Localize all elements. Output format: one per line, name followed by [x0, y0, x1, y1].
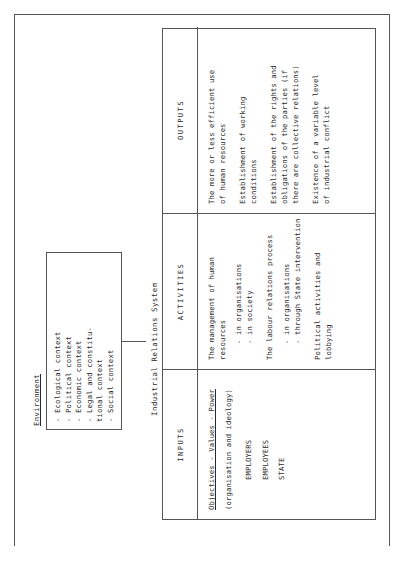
- inputs-line: EMPLOYERS: [244, 378, 255, 510]
- outputs-line: Existence of a variable level: [311, 35, 322, 204]
- environment-item: - Ecological context: [53, 260, 64, 422]
- outputs-line: conditions: [249, 35, 260, 204]
- column-body-outputs: The more or less efficient use of human …: [198, 27, 375, 213]
- column-header-outputs: OUTPUTS: [163, 27, 198, 213]
- inputs-line: Objectives - Values - Power: [207, 378, 218, 510]
- column-activities: ACTIVITIES The management of human resou…: [163, 213, 375, 369]
- diagram-canvas: Environment - Ecological context - Polit…: [0, 0, 404, 566]
- environment-label: Environment: [32, 374, 41, 426]
- rotated-page-wrapper: Environment - Ecological context - Polit…: [0, 0, 404, 566]
- outputs-line: of human resources: [218, 35, 229, 204]
- outputs-line: there are collective relations): [291, 35, 302, 204]
- activities-line: - in organisations: [234, 222, 245, 360]
- environment-item: - Legal and constitu-: [85, 260, 96, 422]
- column-header-inputs: INPUTS: [163, 370, 198, 519]
- column-body-activities: The management of human resources - in o…: [198, 214, 375, 369]
- activities-line: resources: [218, 222, 229, 360]
- outputs-line: Establishment of working: [238, 35, 249, 204]
- industrial-relations-system-label: Industrial Relations System: [150, 282, 159, 416]
- outputs-line: The more or less efficient use: [207, 35, 218, 204]
- environment-connector-line: [122, 341, 146, 342]
- column-header-activities: ACTIVITIES: [163, 214, 198, 369]
- column-inputs: INPUTS Objectives - Values - Power (orga…: [163, 369, 375, 519]
- activities-line: - through State intervention: [293, 222, 304, 360]
- environment-context-box: - Ecological context - Political context…: [46, 252, 122, 430]
- outputs-line: obligations of the parties (if: [280, 35, 291, 204]
- activities-line: lobbying: [324, 222, 335, 360]
- column-body-inputs: Objectives - Values - Power (organisatio…: [198, 370, 375, 519]
- activities-line: The management of human: [207, 222, 218, 360]
- activities-line: The labour relations process: [265, 222, 276, 360]
- activities-line: Political activities and: [313, 222, 324, 360]
- inputs-line-text: Objectives - Values - Power: [207, 389, 216, 510]
- environment-item: - Political context: [64, 260, 75, 422]
- column-outputs: OUTPUTS The more or less efficient use o…: [163, 27, 375, 213]
- outputs-line: Establishment of the rights and: [269, 35, 280, 204]
- environment-item: tional context: [95, 260, 106, 422]
- activities-line: - in organisations: [282, 222, 293, 360]
- inputs-line: EMPLOYEES: [261, 378, 272, 510]
- activities-line: - in society: [245, 222, 256, 360]
- inputs-line: (organisation and ideology): [224, 378, 235, 510]
- inputs-line: STATE: [277, 378, 288, 510]
- environment-item: - Social context: [106, 260, 117, 422]
- outputs-line: of industrial conflict: [322, 35, 333, 204]
- industrial-relations-system-table: INPUTS Objectives - Values - Power (orga…: [162, 28, 376, 520]
- environment-item: - Economic context: [74, 260, 85, 422]
